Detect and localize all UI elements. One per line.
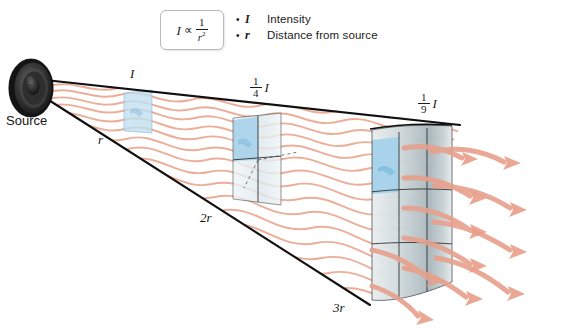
bullet-icon: • xyxy=(236,14,245,25)
ninth-numerator: 1 xyxy=(418,92,430,103)
ninth-denominator: 9 xyxy=(418,104,430,115)
bullet-icon: • xyxy=(236,30,245,41)
legend-item-intensity: • I Intensity xyxy=(236,12,378,28)
label-intensity-1: I xyxy=(130,66,134,82)
legend-symbol-I: I xyxy=(245,12,267,27)
label-distance-3r: 3r xyxy=(333,300,345,316)
quarter-denominator: 4 xyxy=(250,88,262,99)
formula-denominator: r2 xyxy=(196,30,208,43)
ray-bottom xyxy=(44,97,370,305)
ninth-fraction: 1 9 xyxy=(418,92,430,115)
formula-relation: ∝ xyxy=(184,24,193,36)
quarter-fraction: 1 4 xyxy=(250,76,262,99)
legend-item-distance: • r Distance from source xyxy=(236,28,378,44)
legend-label-intensity: Intensity xyxy=(267,13,311,25)
panel-1r xyxy=(124,90,152,133)
ninth-symbol-I: I xyxy=(433,96,437,112)
quarter-numerator: 1 xyxy=(250,76,262,87)
figure-canvas: I ∝ 1 r2 • I Intensity • r Distance from… xyxy=(0,0,561,333)
legend-symbol-r: r xyxy=(245,28,267,43)
speaker-source xyxy=(9,59,53,117)
label-distance-2r: 2r xyxy=(200,210,212,226)
legend-label-distance: Distance from source xyxy=(267,29,378,41)
legend: • I Intensity • r Distance from source xyxy=(236,12,378,44)
label-intensity-quarter: 1 4 I xyxy=(250,76,269,99)
label-intensity-ninth: 1 9 I xyxy=(418,92,437,115)
quarter-symbol-I: I xyxy=(265,80,269,96)
formula-fraction: 1 r2 xyxy=(196,17,208,43)
formula-numerator: 1 xyxy=(197,17,207,29)
panel-3r-highlight-cell xyxy=(372,137,399,194)
formula-box: I ∝ 1 r2 xyxy=(160,10,224,50)
label-source: Source xyxy=(6,113,47,128)
panel-2r-highlight-cell xyxy=(233,117,258,161)
label-distance-r: r xyxy=(98,132,103,148)
intensity-distance-diagram xyxy=(0,0,561,333)
formula-symbol: I xyxy=(176,24,180,37)
